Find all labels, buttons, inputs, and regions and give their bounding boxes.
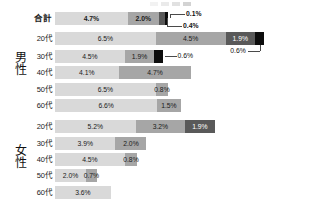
legend-swatch-series3 xyxy=(172,2,180,6)
segment-value-label: 2.0% xyxy=(63,172,79,179)
callout-leader-line xyxy=(170,14,185,15)
callout-leader-line xyxy=(167,26,182,27)
bar-segment-series2: 4.5% xyxy=(156,32,226,45)
segment-value-label: 0.8% xyxy=(154,86,170,93)
segment-value-label: 3.2% xyxy=(153,123,169,130)
segment-value-label: 4.5% xyxy=(82,156,98,163)
segment-value-label: 3.6% xyxy=(75,189,91,196)
bar-segment-series2: 0.8% xyxy=(125,153,137,166)
bar-segment-series1: 3.6% xyxy=(55,186,111,199)
row-bar: 5.2%3.2%1.9% xyxy=(55,120,215,133)
row-label: 30代 xyxy=(0,137,52,150)
row-label: 50代 xyxy=(0,169,52,182)
row-label: 40代 xyxy=(0,153,52,166)
row-label: 50代 xyxy=(0,83,52,96)
row-bar: 4.5%1.9% xyxy=(55,50,163,63)
row-bar: 6.5%0.8% xyxy=(55,83,168,96)
bar-segment-series2: 4.7% xyxy=(119,66,192,79)
row-label: 合計 xyxy=(0,12,52,25)
row-bar: 4.7%2.0% xyxy=(55,12,168,25)
segment-value-label: 3.9% xyxy=(77,140,93,147)
callout-label: 0.4% xyxy=(183,22,199,30)
callout-leader-line xyxy=(248,51,260,52)
row-label: 40代 xyxy=(0,66,52,79)
row-bar: 4.5%0.8% xyxy=(55,153,137,166)
bar-segment-series2: 1.9% xyxy=(125,50,154,63)
segment-value-label: 0.8% xyxy=(123,156,139,163)
row-label: 20代 xyxy=(0,32,52,45)
segment-value-label: 1.9% xyxy=(192,123,208,130)
bar-segment-series2: 0.8% xyxy=(156,83,168,96)
segment-value-label: 5.2% xyxy=(88,123,104,130)
row-bar: 6.5%4.5%1.9% xyxy=(55,32,264,45)
row-bar: 4.1%4.7% xyxy=(55,66,191,79)
bar-segment-series1: 6.6% xyxy=(55,99,157,112)
segment-value-label: 2.0% xyxy=(123,140,139,147)
segment-value-label: 4.7% xyxy=(147,69,163,76)
row-bar: 3.6% xyxy=(55,186,111,199)
bar-segment-series1: 5.2% xyxy=(55,120,136,133)
bar-segment-series1: 6.5% xyxy=(55,32,156,45)
row-label: 20代 xyxy=(0,120,52,133)
segment-value-label: 6.5% xyxy=(98,86,114,93)
bar-segment-series1: 4.5% xyxy=(55,153,125,166)
row-label: 30代 xyxy=(0,50,52,63)
bar-segment-series1: 3.9% xyxy=(55,137,115,150)
bar-segment-series2: 2.0% xyxy=(128,12,159,25)
bar-segment-series1: 2.0% xyxy=(55,169,86,182)
segment-value-label: 4.5% xyxy=(82,53,98,60)
bar-segment-series2: 0.7% xyxy=(86,169,97,182)
segment-value-label: 1.9% xyxy=(132,53,148,60)
segment-value-label: 6.6% xyxy=(98,102,114,109)
callout-leader-line xyxy=(167,18,168,26)
bar-segment-series1: 6.5% xyxy=(55,83,156,96)
row-bar: 3.9%2.0% xyxy=(55,137,146,150)
callout-leader-line xyxy=(165,56,177,57)
callout-label: 0.6% xyxy=(230,47,246,55)
segment-value-label: 1.9% xyxy=(232,35,248,42)
segment-value-label: 6.5% xyxy=(98,35,114,42)
row-label: 60代 xyxy=(0,99,52,112)
bar-segment-series3: 1.9% xyxy=(226,32,255,45)
callout-label: 0.6% xyxy=(178,52,194,60)
bar-segment-series4 xyxy=(154,50,163,63)
bar-segment-series4 xyxy=(255,32,264,45)
row-bar: 2.0%0.7% xyxy=(55,169,97,182)
legend-swatch-series2 xyxy=(161,2,169,6)
segment-value-label: 2.0% xyxy=(136,15,152,22)
callout-leader-line xyxy=(170,14,171,18)
bar-segment-series1: 4.7% xyxy=(55,12,128,25)
segment-value-label: 1.5% xyxy=(161,102,177,109)
segment-value-label: 0.7% xyxy=(84,172,100,179)
legend-swatch-series4 xyxy=(183,2,191,6)
segment-value-label: 4.1% xyxy=(79,69,95,76)
bar-segment-series1: 4.5% xyxy=(55,50,125,63)
bar-segment-series2: 2.0% xyxy=(115,137,146,150)
callout-label: 0.1% xyxy=(186,10,202,18)
stacked-bar-chart: 男性 女性 合計4.7%2.0%20代6.5%4.5%1.9%30代4.5%1.… xyxy=(0,0,312,214)
segment-value-label: 4.7% xyxy=(84,15,100,22)
bar-segment-series2: 1.5% xyxy=(157,99,180,112)
legend-swatch-series1 xyxy=(150,2,158,6)
bar-segment-series2: 3.2% xyxy=(136,120,186,133)
row-bar: 6.6%1.5% xyxy=(55,99,181,112)
bar-segment-series1: 4.1% xyxy=(55,66,119,79)
row-label: 60代 xyxy=(0,186,52,199)
bar-segment-series3: 1.9% xyxy=(185,120,214,133)
segment-value-label: 4.5% xyxy=(183,35,199,42)
chart-legend-cropped xyxy=(150,0,312,7)
callout-leader-line xyxy=(260,45,261,51)
